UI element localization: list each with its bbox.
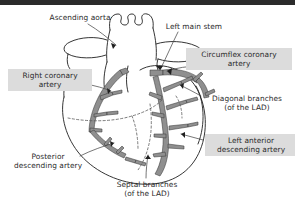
posterior-av-groove-dashed [68,100,162,121]
septal-branch-4 [153,152,166,157]
label-ascending-aorta: Ascending aorta [44,13,116,22]
leader-arrowheads [107,43,185,159]
arrowhead-lad [181,132,185,138]
pda-terminal [125,157,136,163]
superior-vena-cava [64,38,107,58]
label-posterior-descending-artery: Posterior descending artery [8,152,88,170]
leader-left-main-stem [160,32,178,70]
diagonal-branch-4 [168,144,184,149]
label-left-main-stem: Left main stem [160,22,228,31]
diagonal-branch-3b [188,122,198,127]
diagonal-branch-2b [186,97,198,103]
arrowhead-septal [145,155,151,159]
aortic-arch [109,14,153,30]
septal-branch-3 [154,134,166,138]
hidden-lateral-dashed [176,96,182,118]
label-diagonal-branches: Diagonal branches (of the LAD) [203,94,291,112]
leader-ascending-aorta [88,24,116,45]
label-left-anterior-descending-artery: Left anterior descending artery [205,134,295,156]
diagonal-branch-1 [163,81,182,92]
left-main-stem-vessel [150,70,163,76]
acute-marginal-2b [107,111,118,115]
coronary-artery-diagram: Ascending aorta Left main stem Circumfle… [0,0,295,208]
coronary-vessel-group [89,68,215,176]
pda-terminal-b [135,160,146,166]
right-coronary-artery-vessel [89,70,123,132]
label-septal-branches: Septal branches (of the LAD) [106,180,188,198]
acute-marginal-1b [112,90,122,95]
label-right-coronary-artery: Right coronary artery [8,69,92,91]
posterior-interventricular-dashed [132,116,138,150]
ascending-aorta-left-wall [107,30,110,62]
diagonal-branch-3 [169,124,188,130]
hidden-septal-dashed [138,104,151,170]
label-circumflex-coronary-artery: Circumflex coronary artery [186,48,292,70]
diagonal-branch-2 [166,100,187,110]
